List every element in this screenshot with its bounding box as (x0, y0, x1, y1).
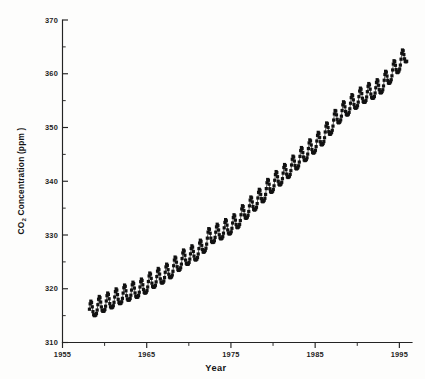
data-point-marker (336, 118, 339, 121)
data-point-marker (373, 95, 376, 98)
data-point-marker (340, 115, 343, 118)
data-point-marker (146, 285, 149, 288)
data-point-marker (150, 282, 153, 285)
data-point-marker (188, 261, 191, 264)
data-point-marker (158, 272, 161, 275)
data-point-marker (189, 252, 192, 255)
data-point-marker (394, 64, 397, 67)
data-point-marker (200, 244, 203, 247)
data-point-marker (242, 205, 245, 208)
data-point-marker (263, 197, 266, 200)
data-point-marker (339, 118, 342, 121)
y-tick-label: 350 (45, 123, 58, 132)
data-point-marker (154, 284, 157, 287)
data-point-marker (205, 243, 208, 246)
data-point-marker (310, 143, 313, 146)
data-point-marker (222, 232, 225, 235)
data-point-marker (399, 58, 402, 61)
data-point-marker (305, 156, 308, 159)
data-point-marker (366, 90, 369, 93)
data-point-marker (357, 101, 360, 104)
data-point-marker (385, 74, 388, 77)
data-point-marker (284, 164, 287, 167)
data-point-marker (332, 118, 335, 121)
y-tick-label: 310 (45, 338, 58, 347)
data-point-marker (251, 200, 254, 203)
data-point-marker (307, 147, 310, 150)
data-point-marker (91, 310, 94, 313)
data-point-marker (167, 273, 170, 276)
data-point-marker (364, 99, 367, 102)
data-point-marker (258, 189, 261, 192)
data-point-marker (223, 226, 226, 229)
data-point-marker (298, 160, 301, 163)
y-tick-label: 330 (45, 231, 58, 240)
data-point-marker (149, 273, 152, 276)
data-point-marker (301, 151, 304, 154)
data-point-marker (314, 149, 317, 152)
data-point-marker (230, 230, 233, 233)
data-point-marker (155, 280, 158, 283)
data-point-marker (385, 71, 388, 74)
data-point-marker (140, 279, 143, 282)
y-axis-title: CO2 Concentration (ppm ) (16, 128, 27, 235)
data-point-marker (349, 102, 352, 105)
y-axis-title-main: CO (16, 221, 26, 234)
data-point-marker (301, 147, 304, 150)
data-point-marker (369, 92, 372, 95)
data-point-marker (104, 305, 107, 308)
data-point-marker (183, 254, 186, 257)
data-point-marker (281, 177, 284, 180)
data-point-marker (105, 299, 108, 302)
data-point-marker (359, 88, 362, 91)
data-point-marker (155, 275, 158, 278)
data-point-marker (335, 113, 338, 116)
data-point-marker (398, 67, 401, 70)
data-point-marker (289, 173, 292, 176)
data-point-marker (216, 224, 219, 227)
data-point-marker (98, 296, 101, 299)
y-axis-ticks (63, 20, 69, 343)
data-point-marker (129, 294, 132, 297)
data-point-marker (197, 247, 200, 250)
data-point-marker (91, 305, 94, 308)
data-point-marker (221, 235, 224, 238)
data-point-marker (293, 159, 296, 162)
data-point-marker (124, 289, 127, 292)
data-point-marker (243, 213, 246, 216)
data-point-marker (374, 86, 377, 89)
data-point-marker (405, 60, 408, 63)
data-point-marker (96, 303, 99, 306)
data-point-marker (326, 126, 329, 129)
data-point-marker (309, 139, 312, 142)
data-point-marker (199, 240, 202, 243)
data-point-marker (150, 277, 153, 280)
data-point-marker (343, 101, 346, 104)
x-axis-tick-labels: 19551965197519851995 (54, 350, 408, 359)
data-point-marker (256, 196, 259, 199)
data-point-marker (99, 300, 102, 303)
data-point-marker (382, 84, 385, 87)
data-point-marker (117, 298, 120, 301)
data-point-marker (96, 308, 99, 311)
data-point-marker (115, 289, 118, 292)
co2-keeling-curve-figure: 310320330340350360370 195519651975198519… (0, 0, 425, 379)
data-point-marker (352, 98, 355, 101)
data-point-marker (204, 247, 207, 250)
data-point-marker (108, 302, 111, 305)
y-axis-title-rest: Concentration (ppm ) (16, 128, 26, 218)
data-point-marker (373, 91, 376, 94)
data-point-marker (315, 139, 318, 142)
data-point-marker (356, 104, 359, 107)
data-point-marker (138, 285, 141, 288)
data-point-marker (180, 257, 183, 260)
y-axis-title-group: CO2 Concentration (ppm ) (16, 128, 27, 235)
data-point-marker (174, 256, 177, 259)
data-point-marker (390, 74, 393, 77)
data-point-marker (247, 210, 250, 213)
data-point-marker (133, 286, 136, 289)
data-point-marker (90, 301, 93, 304)
data-point-marker (297, 164, 300, 167)
data-point-marker (310, 148, 313, 151)
data-point-marker (188, 258, 191, 261)
